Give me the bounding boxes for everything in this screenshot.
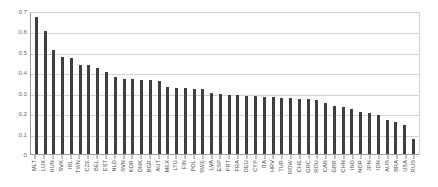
x-tick-label: GRC [306,160,312,173]
bar[interactable] [131,79,134,154]
bar[interactable] [307,99,310,154]
bar[interactable] [123,79,126,154]
bar[interactable] [149,80,152,154]
bar-slot [111,13,120,154]
x-tick-mark [35,155,36,159]
bar[interactable] [201,89,204,154]
bar[interactable] [386,120,389,154]
x-tick-slot: EST [102,155,111,187]
x-tick-slot: MLT [31,155,40,187]
bar[interactable] [315,100,318,154]
x-tick-label: ESP [218,160,224,172]
bar[interactable] [342,107,345,154]
bar[interactable] [87,65,90,154]
x-tick-label: SWE [200,160,206,173]
x-tick-mark [282,155,283,159]
bar[interactable] [166,87,169,154]
bar[interactable] [368,113,371,154]
bar[interactable] [35,17,38,154]
bar[interactable] [254,96,257,154]
x-tick-mark [114,155,115,159]
bar[interactable] [280,98,283,154]
bar[interactable] [96,68,99,154]
x-tick-label: CAN [324,160,330,172]
x-tick-slot: DNK [137,155,146,187]
x-tick-mark [405,155,406,159]
x-tick-mark [176,155,177,159]
bar[interactable] [61,57,64,154]
bar[interactable] [70,58,73,154]
x-tick-mark [123,155,124,159]
bar[interactable] [263,97,266,154]
x-tick-mark [396,155,397,159]
x-tick-label: ROW [288,160,294,174]
x-tick-mark [132,155,133,159]
bar[interactable] [298,99,301,154]
x-tick-mark [317,155,318,159]
bar[interactable] [377,115,380,154]
bar-slot [234,13,243,154]
bar-slot [277,13,286,154]
bar-series [31,13,419,154]
bar[interactable] [210,93,213,154]
bar[interactable] [289,98,292,154]
x-tick-label: LUX [42,160,48,171]
bar[interactable] [175,88,178,154]
x-tick-mark [414,155,415,159]
bar-slot [330,13,339,154]
bar[interactable] [193,89,196,154]
x-tick-mark [335,155,336,159]
x-tick-mark [149,155,150,159]
bar[interactable] [79,65,82,154]
bar-slot [356,13,365,154]
bar[interactable] [114,77,117,154]
y-tick-label: 0.5 [18,50,27,56]
x-tick-slot: SVN [119,155,128,187]
bar[interactable] [350,109,353,154]
bar[interactable] [359,112,362,154]
x-tick-label: TUR [280,160,286,172]
x-tick-mark [97,155,98,159]
y-tick-label: 0.3 [18,91,27,97]
bar[interactable] [140,80,143,154]
bar[interactable] [158,81,161,154]
bar-slot [181,13,190,154]
x-tick-slot: HUN [49,155,58,187]
bar[interactable] [219,94,222,154]
x-tick-label: GBR [332,160,338,172]
x-tick-slot: DEU [243,155,252,187]
x-tick-label: JPN [368,160,374,171]
x-tick-slot: BRA [392,155,401,187]
bar-slot [251,13,260,154]
x-tick-label: TWN [77,160,83,173]
bar-slot [269,13,278,154]
x-tick-mark [264,155,265,159]
bar[interactable] [184,88,187,154]
bar[interactable] [272,97,275,154]
x-tick-label: AUT [156,160,162,172]
bar[interactable] [412,139,415,154]
x-tick-mark [202,155,203,159]
x-tick-slot: TUR [278,155,287,187]
bar[interactable] [236,95,239,154]
x-tick-mark [185,155,186,159]
bar[interactable] [52,50,55,154]
bar[interactable] [333,106,336,154]
x-tick-slot: IDN [375,155,384,187]
x-tick-slot: CHE [295,155,304,187]
x-tick-label: PRT [227,160,233,171]
bar[interactable] [403,125,406,154]
bar[interactable] [228,95,231,154]
x-tick-label: KOR [130,160,136,172]
bar[interactable] [324,103,327,154]
y-tick-label: 0 [24,152,27,158]
bar[interactable] [105,72,108,154]
bar-slot [146,13,155,154]
x-tick-slot: RUS [410,155,419,187]
x-tick-slot: PRT [225,155,234,187]
bar[interactable] [44,31,47,154]
x-tick-mark [379,155,380,159]
bar[interactable] [394,122,397,154]
bar[interactable] [245,96,248,154]
x-tick-slot: BGR [146,155,155,187]
